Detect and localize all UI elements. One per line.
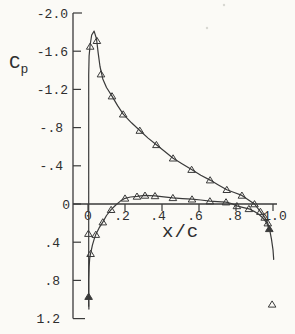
scan-artifact-dot: [223, 4, 225, 6]
y-tick-label: -2.0: [37, 7, 68, 22]
cp-label-main: C: [9, 52, 20, 74]
pressure-distribution-figure: -2.0-1.6-1.2-.8-.40.4.81.20.2.4.6.81.0 C…: [0, 0, 295, 334]
upper-surface-data-point-marker: [97, 71, 105, 77]
x-tick-label: .2: [114, 209, 130, 224]
x-tick-label: 0: [84, 209, 92, 224]
upper-surface-curve: [89, 31, 274, 306]
y-tick-label: 1.2: [37, 312, 60, 327]
y-tick-label: -1.6: [37, 45, 68, 60]
cp-chart-svg: -2.0-1.6-1.2-.8-.40.4.81.20.2.4.6.81.0: [0, 0, 295, 334]
y-tick-label: .4: [44, 236, 60, 251]
y-tick-label: -1.2: [37, 83, 68, 98]
y-tick-label: .8: [44, 274, 60, 289]
outlier-data-point-marker: [268, 301, 276, 307]
scan-artifact-dot: [206, 27, 208, 29]
cp-label-sub: p: [20, 62, 28, 77]
y-tick-label: -.4: [40, 159, 64, 174]
y-axis-label-cp: Cp: [9, 52, 28, 74]
x-tick-label: .8: [226, 209, 242, 224]
x-axis-label: x/c: [162, 221, 199, 243]
y-tick-label: 0: [62, 198, 70, 213]
lower-surface-data-point-marker: [85, 293, 93, 299]
y-tick-label: -.8: [40, 121, 63, 136]
